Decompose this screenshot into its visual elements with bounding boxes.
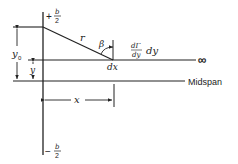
- label-beta: β: [98, 39, 104, 49]
- top-bound-denominator: 2: [55, 17, 59, 24]
- label-y: y: [29, 65, 36, 75]
- label-y0: y: [11, 48, 18, 59]
- label-dy: dy: [146, 45, 158, 56]
- bottom-bound-denominator: 2: [55, 152, 59, 159]
- label-infinity: ∞: [198, 53, 207, 67]
- top-bound-sign: +: [46, 11, 52, 22]
- label-dx: dx: [107, 62, 118, 72]
- top-bound-numerator: b: [55, 8, 60, 16]
- label-dgamma-denominator: dy: [132, 51, 141, 59]
- label-x: x: [74, 94, 80, 105]
- label-dgamma-numerator: dΓ: [131, 42, 141, 50]
- bottom-bound-numerator: b: [55, 143, 60, 151]
- label-midspan: Midspan: [188, 77, 222, 87]
- vortex-geometry-diagram: + b 2 − b 2 r β dΓ dy dy dx ∞ Midspan y …: [0, 0, 238, 164]
- label-r: r: [80, 32, 86, 43]
- bottom-bound-sign: −: [45, 146, 51, 157]
